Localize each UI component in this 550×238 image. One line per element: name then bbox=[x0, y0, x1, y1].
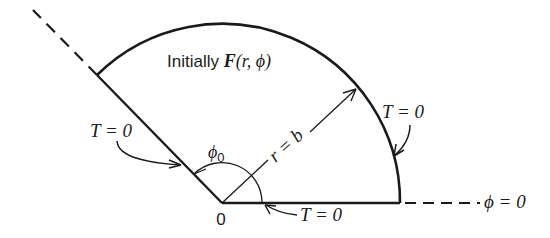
bottom-boundary-pointer-arrow bbox=[266, 205, 297, 215]
radius-label: r = b bbox=[264, 124, 307, 166]
arc-boundary-label: T = 0 bbox=[382, 101, 425, 122]
bottom-boundary-label: T = 0 bbox=[300, 204, 343, 225]
left-boundary-label: T = 0 bbox=[90, 120, 133, 141]
radius-line-upper bbox=[310, 89, 356, 132]
left-boundary-dashed-extension bbox=[33, 10, 97, 75]
wedge-diagram: r = b ϕ0 0 Initially F(r, ϕ) T = 0 T = 0… bbox=[0, 0, 550, 238]
origin-label: 0 bbox=[216, 210, 225, 229]
angle-label: ϕ0 bbox=[208, 142, 225, 165]
angle-arrowhead-icon bbox=[194, 169, 206, 183]
axis-label: ϕ = 0 bbox=[484, 191, 526, 212]
initial-condition-label: Initially F(r, ϕ) bbox=[167, 51, 271, 72]
